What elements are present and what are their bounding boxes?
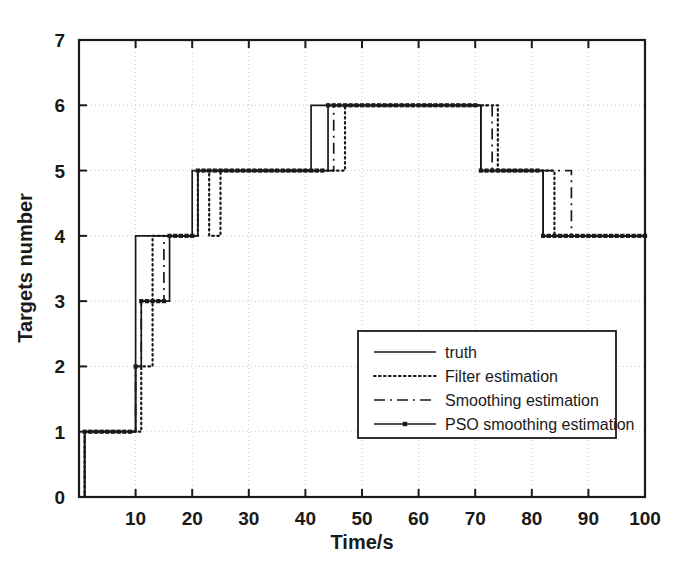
data-point-marker: [337, 103, 341, 107]
data-point-marker: [609, 234, 613, 238]
data-point-marker: [507, 168, 511, 172]
y-tick-label: 7: [54, 30, 65, 51]
data-point-marker: [315, 168, 319, 172]
data-point-marker: [626, 234, 630, 238]
data-point-marker: [105, 430, 109, 434]
data-point-marker: [111, 430, 115, 434]
legend-label-smoothing-estimation[interactable]: Smoothing estimation: [445, 392, 599, 409]
data-point-marker: [241, 168, 245, 172]
data-point-marker: [213, 168, 217, 172]
data-point-marker: [134, 364, 138, 368]
data-point-marker: [428, 103, 432, 107]
x-tick-label: 20: [182, 508, 203, 529]
data-point-marker: [88, 430, 92, 434]
data-point-marker: [417, 103, 421, 107]
data-point-marker: [564, 234, 568, 238]
data-point-marker: [405, 103, 409, 107]
data-point-marker: [230, 168, 234, 172]
data-point-marker: [128, 430, 132, 434]
data-point-marker: [518, 168, 522, 172]
data-point-marker: [513, 168, 517, 172]
data-point-marker: [286, 168, 290, 172]
data-point-marker: [139, 299, 143, 303]
legend-marker-square: [403, 422, 407, 426]
data-point-marker: [637, 234, 641, 238]
data-point-marker: [462, 103, 466, 107]
data-point-marker: [326, 103, 330, 107]
data-point-marker: [218, 168, 222, 172]
data-point-marker: [598, 234, 602, 238]
data-point-marker: [383, 103, 387, 107]
data-point-marker: [615, 234, 619, 238]
data-point-marker: [320, 168, 324, 172]
data-point-marker: [343, 103, 347, 107]
x-tick-label: 90: [578, 508, 599, 529]
y-axis-title: Targets number: [14, 193, 36, 343]
chart-legend[interactable]: truthFilter estimationSmoothing estimati…: [358, 331, 634, 438]
data-point-marker: [450, 103, 454, 107]
data-point-marker: [281, 168, 285, 172]
data-point-marker: [156, 299, 160, 303]
data-point-marker: [490, 168, 494, 172]
y-tick-label: 6: [54, 95, 65, 116]
y-tick-label: 5: [54, 161, 65, 182]
data-point-marker: [264, 168, 268, 172]
data-point-marker: [433, 103, 437, 107]
chart-background: [0, 0, 689, 581]
data-point-marker: [377, 103, 381, 107]
y-tick-label: 2: [54, 356, 65, 377]
x-tick-label: 30: [238, 508, 259, 529]
legend-label-filter-estimation[interactable]: Filter estimation: [445, 368, 558, 385]
data-point-marker: [445, 103, 449, 107]
x-tick-label: 70: [465, 508, 486, 529]
data-point-marker: [247, 168, 251, 172]
data-point-marker: [558, 234, 562, 238]
x-axis-title: Time/s: [331, 531, 394, 553]
data-point-marker: [179, 234, 183, 238]
data-point-marker: [473, 103, 477, 107]
data-point-marker: [592, 234, 596, 238]
data-point-marker: [400, 103, 404, 107]
data-point-marker: [354, 103, 358, 107]
x-tick-label: 60: [408, 508, 429, 529]
data-point-marker: [422, 103, 426, 107]
data-point-marker: [439, 103, 443, 107]
data-point-marker: [360, 103, 364, 107]
data-point-marker: [201, 168, 205, 172]
data-point-marker: [100, 430, 104, 434]
data-point-marker: [269, 168, 273, 172]
legend-label-pso-smoothing-estimation[interactable]: PSO smoothing estimation: [445, 416, 634, 433]
data-point-marker: [411, 103, 415, 107]
legend-label-truth[interactable]: truth: [445, 344, 477, 361]
data-point-marker: [456, 103, 460, 107]
data-point-marker: [547, 234, 551, 238]
data-point-marker: [258, 168, 262, 172]
x-tick-label: 100: [629, 508, 661, 529]
data-point-marker: [603, 234, 607, 238]
data-point-marker: [394, 103, 398, 107]
data-point-marker: [190, 234, 194, 238]
data-point-marker: [309, 168, 313, 172]
x-tick-label: 10: [125, 508, 146, 529]
data-point-marker: [484, 168, 488, 172]
x-tick-label: 40: [295, 508, 316, 529]
data-point-marker: [167, 234, 171, 238]
data-point-marker: [388, 103, 392, 107]
data-point-marker: [541, 234, 545, 238]
y-tick-label: 0: [54, 487, 65, 508]
chart-figure: 102030405060708090100012345670 Time/s Ta…: [0, 0, 689, 581]
data-point-marker: [162, 299, 166, 303]
data-point-marker: [524, 168, 528, 172]
data-point-marker: [552, 234, 556, 238]
data-point-marker: [150, 299, 154, 303]
y-tick-label: 3: [54, 291, 65, 312]
data-point-marker: [632, 234, 636, 238]
data-point-marker: [224, 168, 228, 172]
x-tick-label: 80: [521, 508, 542, 529]
data-point-marker: [501, 168, 505, 172]
data-point-marker: [332, 103, 336, 107]
data-point-marker: [586, 234, 590, 238]
data-point-marker: [207, 168, 211, 172]
data-point-marker: [535, 168, 539, 172]
data-point-marker: [122, 430, 126, 434]
